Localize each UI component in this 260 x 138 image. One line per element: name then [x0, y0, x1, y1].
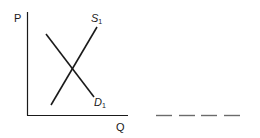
demand-label-subscript: 1 — [102, 102, 106, 109]
y-axis-label: P — [14, 12, 21, 24]
demand-label-letter: D — [94, 96, 102, 108]
supply-curve — [51, 27, 97, 105]
demand-label: D1 — [94, 96, 106, 109]
supply-demand-diagram: P Q S1 D1 — [0, 0, 260, 138]
x-axis-label: Q — [116, 121, 125, 133]
supply-label: S1 — [91, 12, 102, 25]
supply-label-subscript: 1 — [98, 18, 102, 25]
